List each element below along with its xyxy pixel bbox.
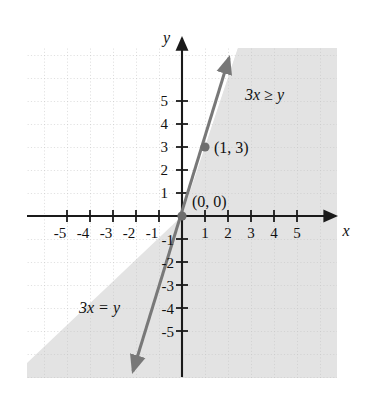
coordinate-plane-svg: -5 -4 -3 -2 -1 1 2 3 4 5 5 4 3 2 1 -1 -2… [0,0,372,405]
line-label-3x-equals-y: 3x = y [78,299,121,317]
y-tick-label-2: 2 [161,162,169,178]
x-tick-label-4: 4 [270,225,278,241]
x-tick-label-1: 1 [201,225,209,241]
y-tick-label-neg2: -2 [162,255,175,271]
y-tick-label-neg1: -1 [162,232,175,248]
point-origin-marker [177,211,186,220]
x-tick-label-5: 5 [293,225,301,241]
x-axis-label: x [341,222,349,239]
y-tick-label-neg5: -5 [162,324,175,340]
y-tick-label-1: 1 [161,185,169,201]
y-axis-label: y [161,29,171,47]
x-tick-label-neg1: -1 [146,225,159,241]
x-tick-label-neg4: -4 [77,225,90,241]
point-label-origin: (0, 0) [192,193,227,211]
x-tick-label-neg3: -3 [100,225,113,241]
y-tick-label-neg3: -3 [162,278,175,294]
y-tick-label-3: 3 [161,139,169,155]
point-1-3-marker [200,142,209,151]
x-tick-label-3: 3 [247,225,255,241]
y-tick-label-5: 5 [161,93,169,109]
point-label-1-3: (1, 3) [214,139,249,157]
y-tick-label-4: 4 [161,116,169,132]
graph-figure: -5 -4 -3 -2 -1 1 2 3 4 5 5 4 3 2 1 -1 -2… [0,0,372,405]
x-tick-label-2: 2 [224,225,232,241]
inequality-label-3x-ge-y: 3x ≥ y [244,86,285,104]
y-tick-label-neg4: -4 [162,301,175,317]
x-tick-label-neg2: -2 [123,225,136,241]
x-tick-label-neg5: -5 [54,225,67,241]
